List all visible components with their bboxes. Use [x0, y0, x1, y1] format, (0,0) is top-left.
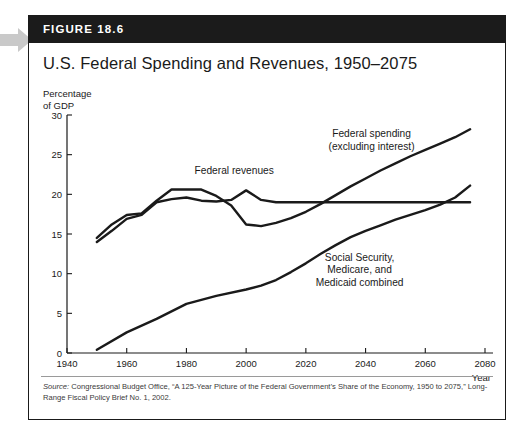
y-tick-label: 15: [51, 229, 62, 240]
series-line-2: [97, 190, 470, 242]
x-tick-label: 2020: [295, 358, 316, 369]
figure-card: FIGURE 18.6 U.S. Federal Spending and Re…: [28, 15, 506, 420]
series-annotation-3: Social Security,: [325, 252, 394, 263]
y-tick-label: 20: [51, 189, 62, 200]
series-annotation-1: Federal spending: [332, 128, 411, 139]
source-divider: [41, 376, 493, 377]
y-tick-label: 10: [51, 268, 62, 279]
chart-plot-area: 0510152025301940196019802000202020402060…: [29, 16, 507, 421]
series-line-3: [97, 186, 470, 350]
y-tick-label: 25: [51, 149, 62, 160]
x-tick-label: 2060: [415, 358, 436, 369]
x-tick-label: 1960: [116, 358, 137, 369]
series-annotation-2: Federal revenues: [195, 165, 274, 176]
x-tick-label: 1980: [176, 358, 197, 369]
figure-screenshot: FIGURE 18.6 U.S. Federal Spending and Re…: [0, 0, 530, 432]
x-tick-label: 2040: [355, 358, 376, 369]
y-tick-label: 0: [57, 348, 62, 359]
x-tick-label: 2000: [236, 358, 257, 369]
y-tick-label: 5: [57, 308, 62, 319]
series-annotation-3: Medicaid combined: [316, 277, 404, 288]
y-tick-label: 30: [51, 110, 62, 121]
x-tick-label: 2080: [474, 358, 495, 369]
series-annotation-1: (excluding interest): [329, 141, 415, 152]
x-tick-label: 1940: [56, 358, 77, 369]
series-annotation-3: Medicare, and: [327, 264, 392, 275]
source-label: Source:: [43, 382, 69, 391]
line-chart-svg: 0510152025301940196019802000202020402060…: [29, 16, 507, 421]
source-note: Source: Congressional Budget Office, “A …: [43, 382, 491, 403]
source-text: Congressional Budget Office, “A 125-Year…: [43, 382, 487, 402]
